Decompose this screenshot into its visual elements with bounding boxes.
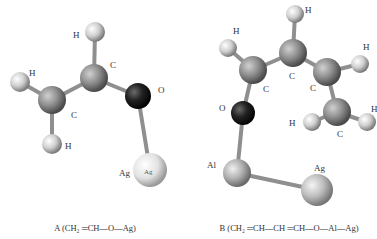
atom-b-c-left — [239, 56, 267, 84]
label-b-h-lower-left: H — [289, 118, 296, 128]
label-a-h-left: H — [29, 68, 36, 78]
label-b-c-left: C — [263, 84, 269, 94]
atom-b-h-right-top — [351, 55, 369, 73]
atom-b-c-lower — [323, 98, 351, 126]
molecule-a: H C H C H O Ag Ag A (CH₂ ═CH—O—Ag) — [10, 22, 167, 233]
atom-a-h-left — [10, 72, 30, 92]
label-b-h-right-top: H — [363, 42, 370, 52]
atom-a-c-lower — [38, 86, 66, 114]
molecule-diagram: H C H C H O Ag Ag A (CH₂ ═CH—O—Ag) — [0, 0, 377, 239]
atom-b-al — [223, 159, 251, 187]
label-b-al: Al — [207, 160, 216, 170]
atom-b-h-lower-left — [303, 113, 321, 131]
molecule-b: H C H C C H C H H O Al Ag B (CH₂ ═CH—CH … — [207, 5, 377, 233]
label-b-c-right: C — [310, 83, 316, 93]
label-a-c-upper: C — [110, 60, 116, 70]
atom-a-c-upper — [80, 64, 108, 92]
atom-b-c-center — [279, 39, 307, 67]
label-a-o: O — [158, 85, 165, 95]
label-a-h-bottom: H — [65, 141, 72, 151]
atom-a-o — [125, 83, 151, 109]
atom-b-ag — [301, 174, 333, 206]
label-b-c-lower: C — [337, 129, 343, 139]
label-a-c-lower: C — [71, 110, 77, 120]
label-a-h-top: H — [73, 30, 80, 40]
atom-a-h-bottom — [42, 134, 62, 154]
label-b-c-center: C — [289, 71, 295, 81]
atom-b-h-top — [286, 5, 304, 23]
atom-b-h-lower-right — [358, 113, 376, 131]
atom-b-o — [231, 101, 255, 125]
label-a-ag: Ag — [119, 168, 130, 178]
atom-a-h-top — [85, 22, 105, 42]
label-b-h-left: H — [233, 26, 240, 36]
caption-b: B (CH₂ ═CH—CH ═CH—O—Al—Ag) — [220, 223, 359, 233]
label-b-h-top: H — [305, 5, 312, 15]
label-b-o: O — [219, 103, 226, 113]
label-b-ag: Ag — [314, 163, 325, 173]
atom-b-h-left — [219, 39, 237, 57]
label-a-ag-inner: Ag — [144, 168, 153, 176]
label-b-h-lower-right: H — [371, 104, 377, 114]
caption-a: A (CH₂ ═CH—O—Ag) — [54, 223, 136, 233]
atom-b-c-right — [313, 58, 341, 86]
